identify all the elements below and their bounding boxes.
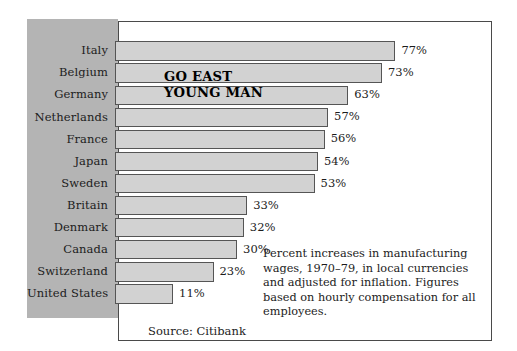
bar (115, 240, 237, 259)
bar-value-label: 73% (388, 67, 414, 79)
chart-caption: Percent increases in manufacturing wages… (263, 247, 479, 320)
bar-chart-figure: Italy77%Belgium73%Germany63%Netherlands5… (0, 0, 517, 351)
bar-value-label: 53% (321, 178, 347, 190)
bar-category-label: France (27, 134, 113, 146)
chart-source-label: Source: Citibank (148, 324, 246, 338)
bar-category-label: Sweden (27, 178, 113, 190)
bar-track: 77% (113, 40, 492, 62)
bar (115, 152, 318, 171)
bar-row: Denmark32% (27, 217, 492, 239)
bar-value-label: 32% (250, 222, 276, 234)
bar-value-label: 54% (324, 156, 350, 168)
bar-track: 53% (113, 173, 492, 195)
bar-track: 56% (113, 128, 492, 150)
bar-category-label: Switzerland (27, 266, 113, 278)
bar-value-label: 56% (331, 134, 357, 146)
bar-row: Japan54% (27, 150, 492, 172)
bar-value-label: 23% (220, 266, 246, 278)
bar (115, 218, 244, 237)
bar-category-label: Britain (27, 200, 113, 212)
bar-category-label: Canada (27, 244, 113, 256)
bar-value-label: 33% (253, 200, 279, 212)
bar-category-label: Netherlands (27, 112, 113, 124)
bar-row: Netherlands57% (27, 106, 492, 128)
bar-row: Sweden53% (27, 173, 492, 195)
bar-value-label: 57% (334, 112, 360, 124)
bar-row: France56% (27, 128, 492, 150)
bar-category-label: United States (27, 288, 113, 300)
bar (115, 196, 247, 215)
bar-track: 32% (113, 217, 492, 239)
bar-category-label: Italy (27, 45, 113, 57)
bar-value-label: 63% (354, 89, 380, 101)
bar-track: 54% (113, 150, 492, 172)
bar-category-label: Japan (27, 156, 113, 168)
bar-track: 33% (113, 195, 492, 217)
bar-category-label: Denmark (27, 222, 113, 234)
bar (115, 262, 214, 281)
bar-track: 57% (113, 106, 492, 128)
chart-headline: GO EAST YOUNG MAN (164, 69, 263, 100)
chart-headline-line-1: GO EAST (164, 69, 263, 85)
bar (115, 174, 315, 193)
bar-row: Britain33% (27, 195, 492, 217)
bar-category-label: Belgium (27, 67, 113, 79)
bar (115, 108, 328, 127)
chart-headline-line-2: YOUNG MAN (164, 85, 263, 101)
bar (115, 130, 325, 149)
bar-value-label: 77% (401, 45, 427, 57)
bar (115, 284, 173, 303)
bar-row: Italy77% (27, 40, 492, 62)
bar-category-label: Germany (27, 89, 113, 101)
bar-value-label: 11% (179, 288, 205, 300)
bar (115, 41, 395, 60)
